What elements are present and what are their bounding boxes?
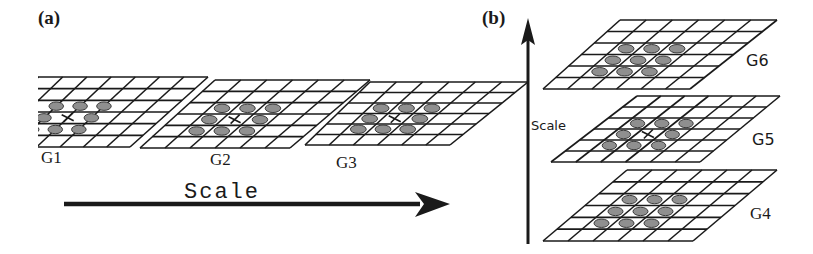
grid-g4-label: G4 — [750, 204, 771, 223]
neighbor-point — [594, 219, 609, 227]
neighbor-point — [72, 125, 87, 133]
neighbor-point — [202, 115, 218, 123]
neighbor-point — [214, 127, 230, 135]
panel-b-label: (b) — [482, 7, 505, 29]
neighbor-point — [240, 104, 256, 112]
grid-g3-label: G3 — [336, 153, 357, 172]
neighbor-point — [605, 56, 621, 64]
neighbor-point — [608, 207, 623, 215]
neighbor-point — [48, 125, 63, 133]
neighbor-point — [655, 56, 671, 64]
neighbor-point — [672, 195, 687, 203]
neighbor-point — [84, 114, 99, 122]
neighbor-point — [647, 195, 662, 203]
neighbor-point — [627, 141, 641, 149]
panel-b: (b) Scale G6 G5 G4 — [482, 7, 780, 244]
grid-g4 — [543, 170, 777, 241]
grid-g1-label: G1 — [41, 148, 62, 167]
neighbor-point — [252, 115, 268, 123]
panel-a-label: (a) — [38, 7, 60, 29]
neighbor-point — [239, 127, 255, 135]
neighbor-point — [350, 125, 366, 133]
grid-g6-label: G6 — [746, 51, 769, 70]
neighbor-point — [630, 119, 644, 127]
grid-g6 — [543, 20, 777, 89]
grid-g2-label: G2 — [210, 150, 231, 169]
sample-point — [630, 56, 646, 64]
neighbor-point — [644, 219, 659, 227]
neighbor-point — [658, 207, 673, 215]
vertical-scale-label: Scale — [531, 118, 566, 133]
neighbor-point — [669, 45, 685, 53]
neighbor-point — [400, 125, 416, 133]
neighbor-point — [665, 130, 679, 138]
sample-point — [633, 207, 648, 215]
neighbor-point — [362, 115, 378, 123]
neighbor-point — [399, 104, 415, 112]
neighbor-point — [617, 68, 633, 76]
neighbor-point — [424, 104, 440, 112]
neighbor-point — [189, 127, 205, 135]
panel-a: (a) G1 G2 G3 Scale — [0, 7, 528, 217]
neighbor-point — [592, 68, 608, 76]
neighbor-point — [642, 68, 658, 76]
neighbor-point — [679, 119, 693, 127]
neighbor-point — [622, 195, 637, 203]
grid-g5 — [551, 96, 780, 162]
neighbor-point — [651, 141, 665, 149]
neighbor-point — [214, 104, 230, 112]
neighbor-point — [616, 130, 630, 138]
neighbor-point — [375, 125, 391, 133]
neighbor-point — [619, 219, 634, 227]
neighbor-point — [373, 104, 389, 112]
neighbor-point — [97, 102, 112, 110]
horizontal-scale-label: Scale — [184, 180, 260, 205]
neighbor-point — [655, 119, 669, 127]
neighbor-point — [412, 115, 428, 123]
neighbor-point — [37, 114, 52, 122]
neighbor-point — [644, 45, 660, 53]
neighbor-point — [73, 102, 88, 110]
neighbor-point — [49, 102, 64, 110]
neighbor-point — [265, 104, 281, 112]
neighbor-point — [618, 45, 634, 53]
grid-g5-label: G5 — [752, 130, 775, 149]
scale-space-diagram: (a) G1 G2 G3 Scale (b) Scale G6 G5 G4 — [0, 0, 813, 254]
neighbor-point — [602, 141, 616, 149]
neighbor-point — [24, 125, 39, 133]
